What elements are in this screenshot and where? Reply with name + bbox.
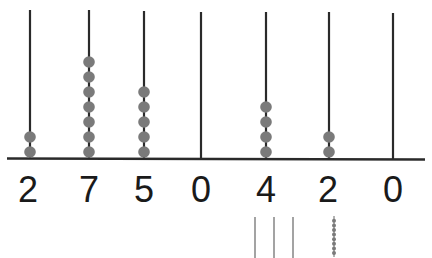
abacus-bead <box>83 71 95 83</box>
small-bead <box>332 228 336 232</box>
digit-label: 0 <box>181 170 221 210</box>
abacus-bead <box>138 86 150 98</box>
abacus-bead <box>260 146 272 158</box>
abacus-beads <box>24 56 335 158</box>
abacus-bead <box>83 86 95 98</box>
digit-label: 0 <box>373 170 413 210</box>
abacus-bead <box>260 116 272 128</box>
tally-lines <box>255 217 293 258</box>
small-bead <box>332 237 336 241</box>
abacus-bead <box>24 146 36 158</box>
abacus-bead <box>83 131 95 143</box>
small-bead <box>332 242 336 246</box>
abacus-diagram <box>0 0 432 258</box>
abacus-bead <box>138 131 150 143</box>
small-bead <box>332 223 336 227</box>
abacus-bead <box>260 101 272 113</box>
abacus-bead <box>83 116 95 128</box>
abacus-bead <box>138 146 150 158</box>
digit-label: 5 <box>124 170 164 210</box>
digit-label: 2 <box>308 170 348 210</box>
digit-label: 4 <box>246 170 286 210</box>
digit-label: 2 <box>8 170 48 210</box>
abacus-bead <box>24 131 36 143</box>
abacus-base <box>7 159 425 160</box>
small-bead <box>332 251 336 255</box>
small-bead <box>332 219 336 223</box>
small-bead <box>332 246 336 250</box>
abacus-bead <box>83 56 95 68</box>
abacus-bead <box>323 146 335 158</box>
abacus-bead <box>83 146 95 158</box>
small-bead-stack <box>332 216 336 257</box>
abacus-bead <box>138 101 150 113</box>
abacus-bead <box>260 131 272 143</box>
abacus-bead <box>83 101 95 113</box>
abacus-bead <box>138 116 150 128</box>
digit-label: 7 <box>69 170 109 210</box>
abacus-bead <box>323 131 335 143</box>
small-bead <box>332 233 336 237</box>
